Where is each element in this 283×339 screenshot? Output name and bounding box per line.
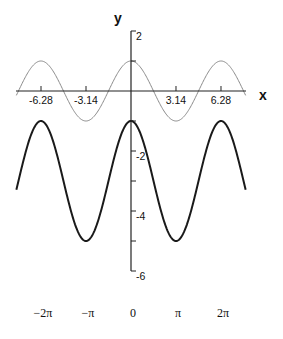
x-tick-label: -3.14 [74,94,98,106]
pi-label: −π [82,306,95,320]
pi-labels: −2π−π0π2π [34,306,230,320]
y-tick-label: -6 [136,270,145,282]
x-ticks: -6.28-3.143.146.28 [29,86,231,106]
pi-label: 0 [130,306,136,320]
x-tick-label: -6.28 [29,94,53,106]
y-axis-label: y [114,10,122,26]
x-tick-label: 6.28 [211,94,232,106]
y-ticks: 2-2-4-6 [131,30,145,282]
chart: -6.28-3.143.146.28 2-2-4-6 x y −2π−π0π2π [0,0,283,339]
y-tick-label: -2 [136,150,145,162]
pi-label: −2π [34,306,53,320]
x-axis-label: x [259,87,267,103]
x-tick-label: 3.14 [166,94,187,106]
y-tick-label: -4 [136,210,145,222]
pi-label: 2π [217,306,229,320]
y-tick-label: 2 [136,30,142,42]
pi-label: π [175,306,181,320]
